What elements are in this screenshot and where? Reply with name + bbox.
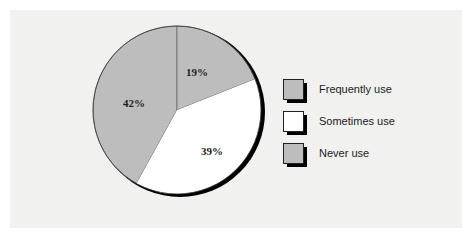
legend: Frequently use Sometimes use Never use — [283, 73, 395, 169]
legend-swatch-frequently — [283, 79, 303, 99]
label-never: 42% — [123, 97, 145, 109]
legend-label: Never use — [319, 147, 369, 159]
label-sometimes: 39% — [201, 145, 223, 157]
legend-swatch-never — [283, 143, 303, 163]
legend-item-never: Never use — [283, 137, 395, 169]
legend-item-sometimes: Sometimes use — [283, 105, 395, 137]
legend-label: Sometimes use — [319, 115, 395, 127]
legend-label: Frequently use — [319, 83, 392, 95]
label-frequently: 19% — [186, 66, 208, 78]
legend-swatch-sometimes — [283, 111, 303, 131]
legend-item-frequently: Frequently use — [283, 73, 395, 105]
